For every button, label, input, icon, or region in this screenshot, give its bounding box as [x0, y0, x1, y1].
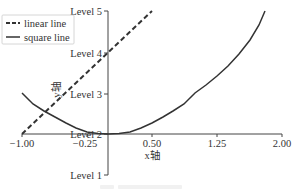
- y-ticks: [104, 11, 108, 175]
- caption-faint-2: [118, 185, 182, 189]
- chart-canvas: Level 1 Level 2 Level 3 Level 4 Level 5 …: [0, 0, 294, 192]
- y-tick-labels: Level 1 Level 2 Level 3 Level 4 Level 5: [70, 6, 103, 181]
- legend-label-square: square line: [24, 32, 70, 43]
- x-tick-label-neg025: −0.25: [73, 138, 97, 149]
- y-tick-label-3: Level 3: [70, 89, 102, 100]
- x-tick-labels: −1.00 −0.25 0.50 1.25 2.00: [10, 138, 291, 149]
- caption-faint-1: [100, 185, 114, 189]
- x-tick-label-neg1: −1.00: [10, 138, 34, 149]
- legend: linear line square line: [2, 15, 74, 44]
- x-axis-title: x轴: [144, 149, 159, 161]
- y-tick-label-4: Level 4: [70, 48, 103, 59]
- y-tick-label-1: Level 1: [70, 170, 102, 181]
- x-tick-label-200: 2.00: [273, 138, 291, 149]
- x-tick-label-125: 1.25: [208, 138, 226, 149]
- y-tick-label-5: Level 5: [70, 6, 102, 17]
- x-tick-label-050: 0.50: [143, 138, 161, 149]
- legend-label-linear: linear line: [24, 18, 67, 29]
- y-axis-title: y轴: [50, 82, 62, 97]
